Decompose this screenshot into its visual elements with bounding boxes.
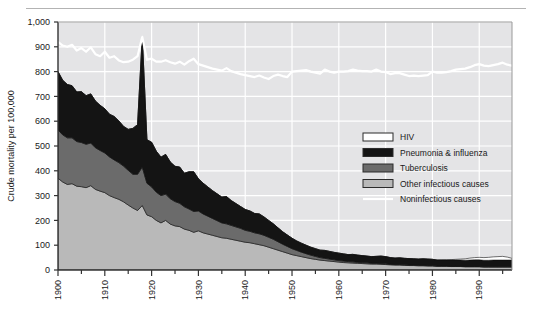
legend-swatch-other-infectious-causes (363, 180, 393, 188)
legend-swatch-pneumonia-influenza (363, 149, 393, 157)
x-tick-label: 1990 (474, 280, 484, 300)
legend-label-pneumonia-influenza: Pneumonia & influenza (400, 148, 488, 158)
y-axis-ticks: 01002003004005006007008009001,000 (27, 17, 58, 275)
y-tick-label: 600 (35, 116, 50, 126)
x-tick-label: 1980 (428, 280, 438, 300)
y-tick-label: 0 (45, 265, 50, 275)
legend-swatch-tuberculosis (363, 164, 393, 172)
chart-svg: 01002003004005006007008009001,000 190019… (0, 0, 536, 319)
x-tick-label: 1970 (381, 280, 391, 300)
legend-label-hiv: HIV (400, 132, 415, 142)
x-tick-label: 1940 (240, 280, 250, 300)
y-axis-title: Crude mortality per 100,000 (6, 90, 16, 202)
legend-label-tuberculosis: Tuberculosis (400, 163, 448, 173)
x-tick-label: 1930 (194, 280, 204, 300)
x-axis-ticks: 1900191019201930194019501960197019801990 (53, 270, 502, 300)
y-tick-label: 800 (35, 67, 50, 77)
x-tick-label: 1960 (334, 280, 344, 300)
y-tick-label: 700 (35, 92, 50, 102)
x-tick-label: 1900 (53, 280, 63, 300)
legend-swatch-hiv (363, 133, 393, 141)
y-tick-label: 900 (35, 42, 50, 52)
legend-label-noninfectious-causes: Noninfectious causes (400, 194, 481, 204)
legend-label-other-infectious-causes: Other infectious causes (400, 179, 489, 189)
y-tick-label: 400 (35, 166, 50, 176)
x-tick-label: 1910 (100, 280, 110, 300)
y-tick-label: 100 (35, 240, 50, 250)
y-tick-label: 500 (35, 141, 50, 151)
mortality-stacked-area-chart: 01002003004005006007008009001,000 190019… (0, 0, 536, 319)
y-tick-label: 1,000 (27, 17, 50, 27)
x-tick-label: 1920 (147, 280, 157, 300)
y-tick-label: 200 (35, 216, 50, 226)
x-tick-label: 1950 (287, 280, 297, 300)
y-tick-label: 300 (35, 191, 50, 201)
